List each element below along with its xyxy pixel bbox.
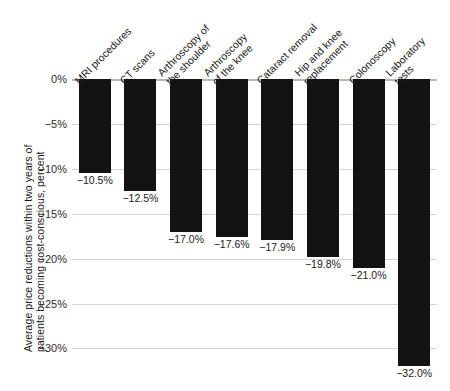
y-axis-tick-label: −30%: [39, 342, 67, 354]
gridline: −25%: [72, 304, 437, 305]
bar-value-label: −17.9%: [259, 241, 295, 253]
bar-chart: Average price reductions within two year…: [0, 0, 450, 391]
bar-value-label: −10.5%: [77, 174, 113, 186]
plot-area: 0%−5%−10%−15%−20%−25%−30%−10.5%MRI proce…: [72, 79, 437, 352]
bar: [398, 79, 430, 366]
bar: [124, 79, 156, 191]
y-axis-tick-label: 0%: [51, 73, 67, 85]
bar-value-label: −21.0%: [351, 269, 387, 281]
bar-value-label: −32.0%: [396, 367, 432, 379]
bar: [170, 79, 202, 232]
bar: [307, 79, 339, 257]
bar: [261, 79, 293, 240]
y-axis-title: Average price reductions within two year…: [0, 0, 44, 391]
bar-value-label: −17.0%: [168, 233, 204, 245]
y-axis-tick-label: −25%: [39, 298, 67, 310]
y-axis-tick-label: −5%: [45, 118, 67, 130]
y-axis-tick-label: −20%: [39, 253, 67, 265]
bar-value-label: −12.5%: [122, 192, 158, 204]
y-axis-tick-label: −10%: [39, 163, 67, 175]
y-axis-tick-label: −15%: [39, 208, 67, 220]
gridline: −30%: [72, 348, 437, 349]
bar: [216, 79, 248, 237]
y-axis-title-line-1: Average price reductions within two year…: [22, 145, 34, 352]
bar: [79, 79, 111, 173]
bar-value-label: −17.6%: [214, 238, 250, 250]
bar: [353, 79, 385, 268]
bar-value-label: −19.8%: [305, 258, 341, 270]
